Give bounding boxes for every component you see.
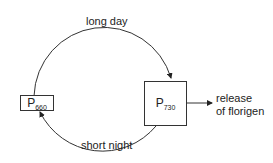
long-day-label: long day xyxy=(86,15,128,27)
p730-box: P730 xyxy=(144,81,187,126)
p660-box: P660 xyxy=(20,95,54,111)
cycle-diagram-lines xyxy=(0,0,273,163)
p730-label: P730 xyxy=(156,96,176,111)
p660-label: P660 xyxy=(27,96,47,111)
short-night-label: short night xyxy=(81,139,132,151)
release-label-line2: of florigen xyxy=(216,105,264,117)
release-label-line1: release xyxy=(216,92,252,104)
